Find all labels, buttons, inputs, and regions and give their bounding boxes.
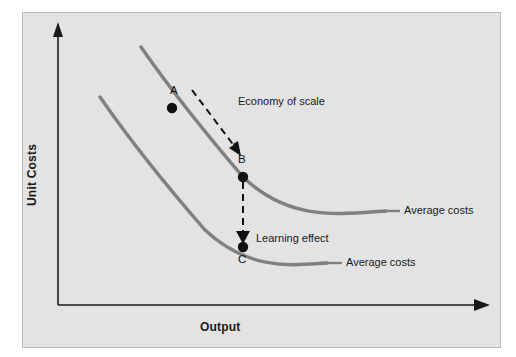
- x-axis-arrowhead: [474, 299, 490, 311]
- economy-of-scale-label: Economy of scale: [238, 95, 325, 107]
- point-label-b: B: [238, 153, 246, 165]
- point-label-c: C: [238, 253, 246, 265]
- upper-average-costs-label: Average costs: [404, 204, 474, 216]
- y-axis-title: Unit Costs: [25, 125, 39, 225]
- data-point-c: [238, 242, 248, 252]
- economy-of-scale-arrow: [192, 90, 235, 147]
- figure-screenshot: Unit Costs Output A B C Economy of scale…: [0, 0, 516, 357]
- data-point-a: [167, 103, 177, 113]
- upper-average-cost-curve: [141, 47, 386, 214]
- chart-graphics: [0, 0, 516, 357]
- y-axis-arrowhead: [53, 22, 63, 37]
- x-axis-title: Output: [200, 320, 241, 334]
- lower-average-costs-label: Average costs: [346, 256, 416, 268]
- learning-effect-label: Learning effect: [256, 232, 329, 244]
- point-label-a: A: [170, 84, 178, 96]
- data-point-b: [238, 172, 248, 182]
